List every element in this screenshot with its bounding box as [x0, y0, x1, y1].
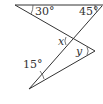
arc-y	[87, 47, 88, 55]
label-30: 30°	[35, 5, 55, 18]
diagonal-line-right	[29, 6, 102, 89]
label-15: 15°	[23, 58, 43, 71]
label-45: 45°	[79, 5, 99, 18]
label-y: y	[75, 45, 83, 58]
arc-30	[31, 5, 33, 14]
arc-x	[65, 37, 66, 45]
label-x: x	[58, 35, 65, 48]
angle-diagram: 30° 45° x y 15°	[0, 0, 103, 104]
